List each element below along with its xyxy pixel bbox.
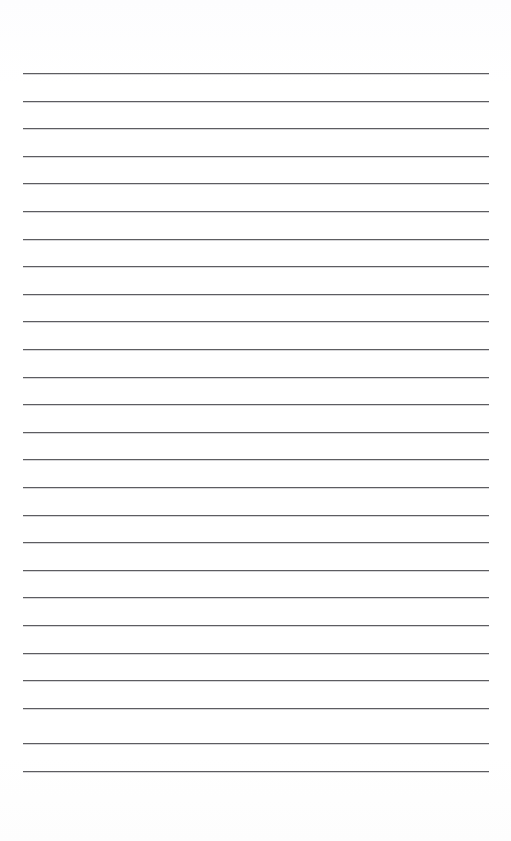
rule-line	[23, 653, 489, 654]
rule-line	[23, 404, 489, 405]
rule-line	[23, 321, 489, 322]
rule-line	[23, 515, 489, 516]
ruled-lines-container	[0, 0, 511, 841]
rule-line	[23, 128, 489, 129]
rule-line	[23, 211, 489, 212]
rule-line	[23, 266, 489, 267]
rule-line	[23, 597, 489, 598]
rule-line	[23, 73, 489, 74]
rule-line	[23, 459, 489, 460]
rule-line	[23, 294, 489, 295]
page-footer-blank-area	[0, 771, 511, 841]
rule-line	[23, 680, 489, 681]
rule-line	[23, 542, 489, 543]
rule-line	[23, 183, 489, 184]
rule-line	[23, 487, 489, 488]
rule-line	[23, 239, 489, 240]
rule-line	[23, 743, 489, 744]
rule-line	[23, 625, 489, 626]
rule-line	[23, 101, 489, 102]
rule-line	[23, 349, 489, 350]
lined-paper-page	[0, 0, 511, 841]
rule-line	[23, 432, 489, 433]
rule-line	[23, 377, 489, 378]
rule-line	[23, 570, 489, 571]
rule-line	[23, 156, 489, 157]
rule-line	[23, 708, 489, 709]
